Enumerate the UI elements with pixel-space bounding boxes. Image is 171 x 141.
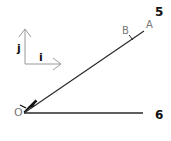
basis-i-label: i xyxy=(39,52,43,63)
point-b-label: B xyxy=(122,26,129,36)
line-6-label: 6 xyxy=(155,109,163,121)
point-a-label: A xyxy=(146,20,153,30)
line-5 xyxy=(24,31,144,113)
origin-label: O xyxy=(14,107,23,118)
line-5-label: 5 xyxy=(155,6,163,18)
basis-j-label: j xyxy=(17,43,21,54)
